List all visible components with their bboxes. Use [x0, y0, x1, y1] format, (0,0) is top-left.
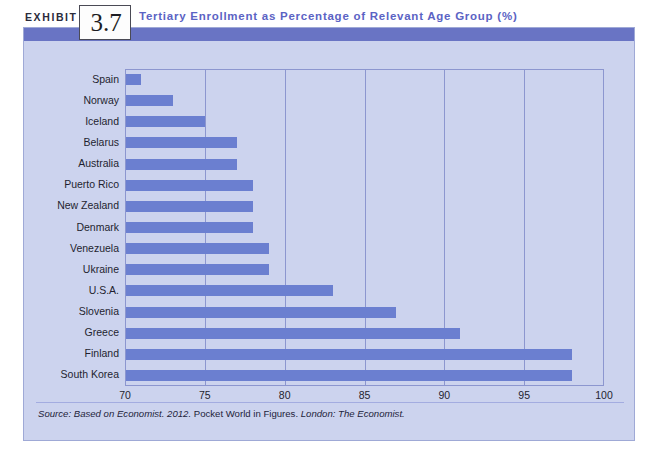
bar-row [125, 238, 604, 259]
source-middle: Pocket World in Figures. [194, 408, 298, 419]
y-tick-label: Belarus [23, 136, 119, 148]
x-tick-label: 70 [119, 389, 131, 401]
x-tick-label: 95 [518, 389, 530, 401]
x-tick-label: 90 [438, 389, 450, 401]
y-tick-label: Ukraine [23, 263, 119, 275]
y-tick-label: Norway [23, 94, 119, 106]
bar [125, 222, 253, 233]
bar-row [125, 280, 604, 301]
bar-row [125, 217, 604, 238]
bar [125, 307, 396, 318]
bar-row [125, 154, 604, 175]
x-tick-label: 85 [359, 389, 371, 401]
x-tick-label: 100 [595, 389, 613, 401]
bar [125, 285, 333, 296]
y-tick-label: Iceland [23, 115, 119, 127]
bar [125, 116, 205, 127]
source-divider [36, 402, 624, 403]
source-prefix: Source: Based on Economist. 2012. [38, 408, 191, 419]
x-tick-label: 80 [279, 389, 291, 401]
bar [125, 180, 253, 191]
bar [125, 264, 269, 275]
source-suffix: London: The Economist. [301, 408, 405, 419]
y-tick-label: New Zealand [23, 199, 119, 211]
source-note: Source: Based on Economist. 2012. Pocket… [38, 408, 405, 419]
bar-row [125, 365, 604, 386]
bar-row [125, 323, 604, 344]
y-tick-label: Australia [23, 157, 119, 169]
bar [125, 95, 173, 106]
chart-panel: SpainNorwayIcelandBelarusAustraliaPuerto… [23, 27, 635, 441]
bar-row [125, 344, 604, 365]
bar [125, 74, 141, 85]
bar-row [125, 132, 604, 153]
bar-row [125, 69, 604, 90]
y-tick-label: South Korea [23, 368, 119, 380]
bar [125, 137, 237, 148]
bar [125, 243, 269, 254]
y-axis-labels: SpainNorwayIcelandBelarusAustraliaPuerto… [23, 69, 119, 386]
y-tick-label: Greece [23, 326, 119, 338]
exhibit-number-box: 3.7 [79, 5, 131, 40]
bar-row [125, 301, 604, 322]
y-tick-label: Finland [23, 347, 119, 359]
bar [125, 159, 237, 170]
y-tick-label: Denmark [23, 221, 119, 233]
x-tick-label: 75 [199, 389, 211, 401]
bar [125, 349, 572, 360]
bar-row [125, 196, 604, 217]
bar [125, 370, 572, 381]
y-tick-label: U.S.A. [23, 284, 119, 296]
bar-row [125, 90, 604, 111]
bar-row [125, 175, 604, 196]
bar [125, 201, 253, 212]
exhibit-number: 3.7 [80, 6, 132, 41]
exhibit-label: EXHIBIT [25, 11, 78, 23]
bar-row [125, 259, 604, 280]
bar-row [125, 111, 604, 132]
y-tick-label: Venezuela [23, 242, 119, 254]
bar [125, 328, 460, 339]
y-tick-label: Slovenia [23, 305, 119, 317]
page-title: Tertiary Enrollment as Percentage of Rel… [139, 10, 517, 22]
x-axis-labels: 707580859095100 [125, 389, 604, 409]
bar-chart: SpainNorwayIcelandBelarusAustraliaPuerto… [125, 69, 604, 386]
y-tick-label: Spain [23, 73, 119, 85]
y-tick-label: Puerto Rico [23, 178, 119, 190]
exhibit-header: EXHIBIT 3.7 Tertiary Enrollment as Perce… [0, 0, 658, 28]
